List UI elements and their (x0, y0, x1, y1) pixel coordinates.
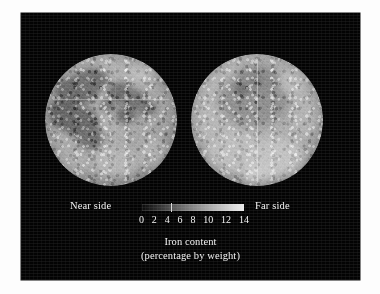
colorbar-tick-2: 2 (152, 214, 157, 225)
colorbar-tick-4: 4 (165, 214, 170, 225)
colorbar-tick-6: 6 (178, 214, 183, 225)
caption-line-title: Iron content (21, 235, 360, 249)
figure-root: Near side Far side 0 2 4 6 8 10 12 14 Ir… (0, 0, 380, 294)
moon-disk-far-side (191, 54, 323, 186)
iron-content-colorbar (142, 204, 244, 211)
colorbar-tick-mark (171, 203, 172, 212)
colorbar-tick-8: 8 (190, 214, 195, 225)
near-side-label: Near side (70, 200, 111, 211)
figure-caption: Iron content (percentage by weight) (21, 235, 360, 262)
moon-disk-near-side (45, 54, 177, 186)
colorbar-tick-0: 0 (139, 214, 144, 225)
colorbar-tick-labels: 0 2 4 6 8 10 12 14 (139, 214, 249, 227)
colorbar-tick-10: 10 (203, 214, 213, 225)
scale-row: Near side Far side 0 2 4 6 8 10 12 14 (21, 200, 360, 220)
caption-line-units: (percentage by weight) (21, 249, 360, 263)
lunar-iron-map-panel: Near side Far side 0 2 4 6 8 10 12 14 Ir… (21, 13, 360, 280)
moon-near-limb-shading (45, 54, 177, 186)
colorbar-tick-14: 14 (239, 214, 249, 225)
colorbar-tick-12: 12 (221, 214, 231, 225)
far-side-label: Far side (255, 200, 290, 211)
moon-far-limb-shading (191, 54, 323, 186)
